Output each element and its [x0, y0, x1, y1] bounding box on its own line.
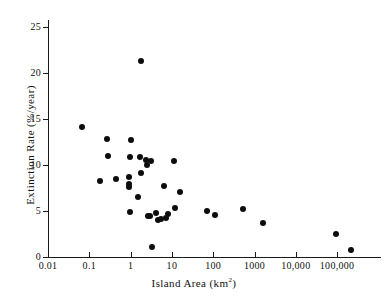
x-axis-title-close: ) — [232, 277, 236, 289]
data-point — [104, 136, 110, 142]
data-point — [97, 178, 103, 184]
x-axis-title-text: Island Area (km — [152, 277, 229, 289]
data-point — [126, 184, 132, 190]
scatter-chart: 0510152025 0.010.1110100100010,000100,00… — [0, 0, 388, 298]
data-point — [127, 209, 133, 215]
data-point — [161, 183, 167, 189]
data-point — [172, 205, 178, 211]
data-point — [128, 137, 134, 143]
y-axis-title: Extinction Rate (%/year) — [24, 30, 36, 260]
data-point — [79, 124, 85, 130]
data-point — [113, 176, 119, 182]
data-point — [127, 154, 133, 160]
data-point — [333, 231, 339, 237]
x-axis-title: Island Area (km2) — [0, 276, 388, 289]
data-point — [105, 153, 111, 159]
data-point — [126, 174, 132, 180]
data-point — [165, 211, 171, 217]
data-point — [135, 194, 141, 200]
data-point — [240, 206, 246, 212]
data-point — [260, 220, 266, 226]
plot-area — [0, 0, 388, 298]
data-point — [148, 158, 154, 164]
data-point — [149, 244, 155, 250]
data-point — [177, 189, 183, 195]
data-point — [138, 170, 144, 176]
data-point — [348, 247, 354, 253]
data-point — [171, 158, 177, 164]
data-point — [212, 212, 218, 218]
data-point — [138, 58, 144, 64]
data-point — [147, 213, 153, 219]
data-point — [204, 208, 210, 214]
data-point — [153, 210, 159, 216]
